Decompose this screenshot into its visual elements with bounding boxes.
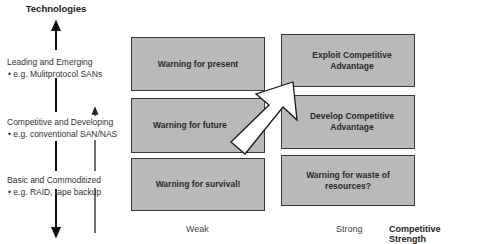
- x-label-weak: Weak: [186, 224, 209, 234]
- x-axis-title: Competitive Strength: [389, 224, 477, 244]
- x-label-strong: Strong: [336, 224, 363, 234]
